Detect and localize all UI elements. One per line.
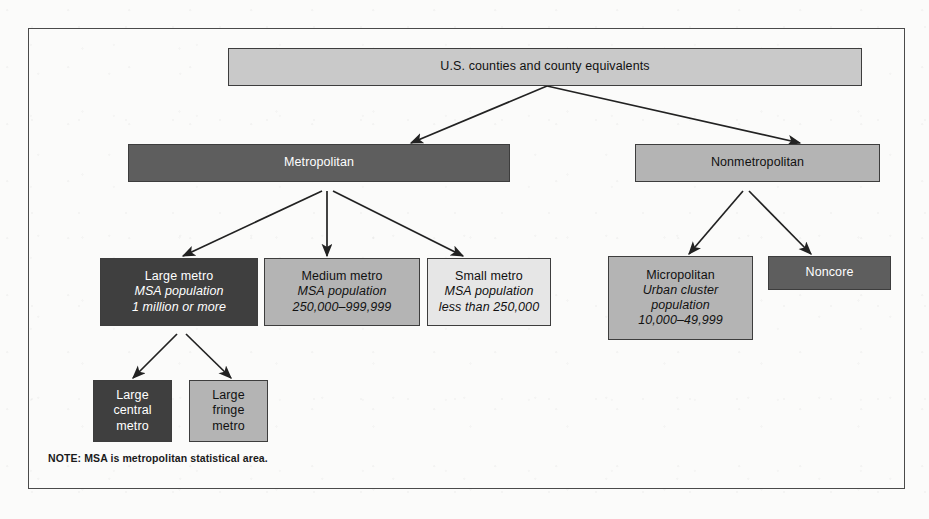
node-large-metro[interactable]: Large metro MSA population 1 million or … bbox=[100, 258, 258, 326]
node-large-central-metro-line-0: Large bbox=[116, 388, 148, 403]
node-root[interactable]: U.S. counties and county equivalents bbox=[228, 48, 862, 86]
node-micropolitan[interactable]: Micropolitan Urban cluster population 10… bbox=[608, 256, 753, 340]
node-medium-metro[interactable]: Medium metro MSA population 250,000–999,… bbox=[264, 258, 420, 326]
node-root-line-0: U.S. counties and county equivalents bbox=[440, 59, 649, 74]
node-large-central-metro-line-1: central bbox=[113, 403, 151, 418]
node-small-metro-line-0: Small metro bbox=[455, 269, 523, 284]
node-large-metro-line-2: 1 million or more bbox=[132, 300, 226, 315]
node-large-metro-line-1: MSA population bbox=[134, 284, 223, 299]
node-nonmetropolitan-line-0: Nonmetropolitan bbox=[711, 155, 804, 170]
node-micropolitan-line-2: population bbox=[651, 298, 710, 313]
node-small-metro[interactable]: Small metro MSA population less than 250… bbox=[427, 258, 551, 326]
node-large-central-metro-line-2: metro bbox=[116, 419, 148, 434]
node-large-fringe-metro-line-1: fringe bbox=[213, 403, 245, 418]
node-large-fringe-metro-line-2: metro bbox=[212, 419, 244, 434]
node-large-metro-line-0: Large metro bbox=[145, 269, 214, 284]
node-small-metro-line-1: MSA population bbox=[444, 284, 533, 299]
node-noncore-line-0: Noncore bbox=[806, 265, 854, 280]
node-micropolitan-line-1: Urban cluster bbox=[643, 283, 719, 298]
node-large-fringe-metro[interactable]: Large fringe metro bbox=[189, 380, 268, 442]
node-metropolitan[interactable]: Metropolitan bbox=[128, 144, 510, 182]
node-medium-metro-line-2: 250,000–999,999 bbox=[293, 300, 392, 315]
figure-note: NOTE: MSA is metropolitan statistical ar… bbox=[48, 452, 268, 464]
node-micropolitan-line-0: Micropolitan bbox=[646, 268, 715, 283]
node-medium-metro-line-1: MSA population bbox=[297, 284, 386, 299]
node-nonmetropolitan[interactable]: Nonmetropolitan bbox=[635, 144, 880, 182]
node-large-fringe-metro-line-0: Large bbox=[212, 388, 244, 403]
node-noncore[interactable]: Noncore bbox=[768, 256, 891, 290]
node-small-metro-line-2: less than 250,000 bbox=[439, 300, 539, 315]
node-micropolitan-line-3: 10,000–49,999 bbox=[638, 313, 723, 328]
node-large-central-metro[interactable]: Large central metro bbox=[93, 380, 172, 442]
node-medium-metro-line-0: Medium metro bbox=[301, 269, 382, 284]
node-metropolitan-line-0: Metropolitan bbox=[284, 155, 354, 170]
